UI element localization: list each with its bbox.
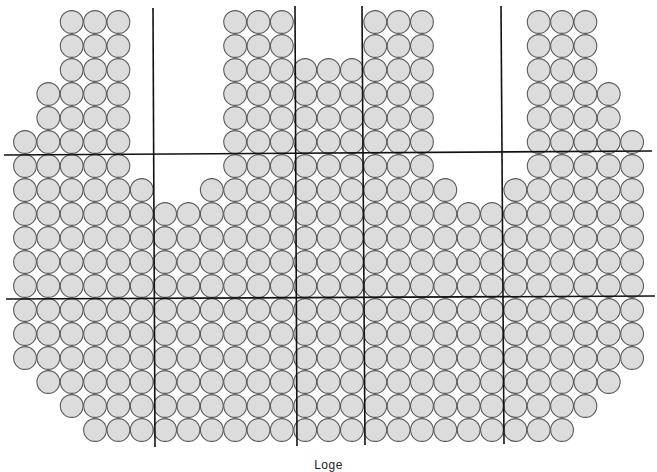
seat[interactable]	[621, 155, 644, 178]
seat[interactable]	[107, 35, 130, 58]
seat[interactable]	[527, 203, 550, 226]
seat[interactable]	[177, 323, 200, 346]
seat[interactable]	[14, 179, 37, 202]
seat[interactable]	[411, 347, 434, 370]
seat[interactable]	[364, 203, 387, 226]
seat[interactable]	[387, 251, 410, 274]
seat[interactable]	[551, 203, 574, 226]
seat[interactable]	[37, 203, 60, 226]
seat[interactable]	[481, 395, 504, 418]
seat[interactable]	[224, 323, 247, 346]
seat[interactable]	[597, 251, 620, 274]
seat[interactable]	[481, 251, 504, 274]
seat[interactable]	[574, 347, 597, 370]
seat[interactable]	[527, 227, 550, 250]
seat[interactable]	[130, 323, 153, 346]
seat[interactable]	[574, 299, 597, 322]
seat[interactable]	[247, 323, 270, 346]
seat[interactable]	[317, 227, 340, 250]
seat[interactable]	[341, 299, 364, 322]
seat[interactable]	[200, 299, 223, 322]
seat[interactable]	[364, 371, 387, 394]
seat[interactable]	[317, 203, 340, 226]
seat[interactable]	[60, 395, 83, 418]
seat[interactable]	[107, 347, 130, 370]
seat[interactable]	[107, 419, 130, 442]
seat[interactable]	[294, 107, 317, 130]
seat[interactable]	[107, 83, 130, 106]
seat[interactable]	[551, 11, 574, 34]
seat[interactable]	[574, 275, 597, 298]
seat[interactable]	[551, 323, 574, 346]
seat[interactable]	[60, 275, 83, 298]
seat[interactable]	[224, 203, 247, 226]
seat[interactable]	[317, 107, 340, 130]
seat[interactable]	[317, 251, 340, 274]
seat[interactable]	[341, 371, 364, 394]
seat[interactable]	[224, 347, 247, 370]
seat[interactable]	[527, 131, 550, 154]
seat[interactable]	[364, 251, 387, 274]
seat[interactable]	[597, 275, 620, 298]
seat[interactable]	[527, 371, 550, 394]
seat[interactable]	[247, 179, 270, 202]
seat[interactable]	[597, 107, 620, 130]
seat[interactable]	[154, 227, 177, 250]
seat[interactable]	[574, 35, 597, 58]
seat[interactable]	[84, 395, 107, 418]
seat[interactable]	[411, 131, 434, 154]
seat[interactable]	[621, 275, 644, 298]
seat[interactable]	[84, 155, 107, 178]
seat[interactable]	[597, 83, 620, 106]
seat[interactable]	[457, 251, 480, 274]
seat[interactable]	[107, 59, 130, 82]
seat[interactable]	[270, 83, 293, 106]
seat[interactable]	[457, 371, 480, 394]
seat[interactable]	[411, 107, 434, 130]
seat[interactable]	[411, 11, 434, 34]
seat[interactable]	[341, 155, 364, 178]
seat[interactable]	[574, 155, 597, 178]
seat[interactable]	[434, 299, 457, 322]
seat[interactable]	[387, 203, 410, 226]
seat[interactable]	[364, 347, 387, 370]
seat[interactable]	[37, 131, 60, 154]
seat[interactable]	[60, 35, 83, 58]
seat[interactable]	[84, 203, 107, 226]
seat[interactable]	[177, 251, 200, 274]
seat[interactable]	[270, 347, 293, 370]
seat[interactable]	[84, 83, 107, 106]
seat[interactable]	[247, 299, 270, 322]
seat[interactable]	[270, 131, 293, 154]
seat[interactable]	[37, 227, 60, 250]
seat[interactable]	[341, 347, 364, 370]
seat[interactable]	[364, 131, 387, 154]
seat[interactable]	[527, 275, 550, 298]
seat[interactable]	[504, 395, 527, 418]
seat[interactable]	[177, 347, 200, 370]
seat[interactable]	[224, 107, 247, 130]
seat[interactable]	[597, 227, 620, 250]
seat[interactable]	[14, 347, 37, 370]
seat[interactable]	[411, 179, 434, 202]
seat[interactable]	[270, 371, 293, 394]
seat[interactable]	[154, 419, 177, 442]
seat[interactable]	[597, 155, 620, 178]
seat[interactable]	[527, 155, 550, 178]
seat[interactable]	[504, 227, 527, 250]
seat[interactable]	[224, 299, 247, 322]
seat[interactable]	[60, 155, 83, 178]
seat[interactable]	[130, 299, 153, 322]
seat[interactable]	[597, 179, 620, 202]
seat[interactable]	[60, 371, 83, 394]
seat[interactable]	[387, 83, 410, 106]
seat[interactable]	[270, 323, 293, 346]
seat[interactable]	[317, 395, 340, 418]
seat[interactable]	[107, 299, 130, 322]
seat[interactable]	[457, 227, 480, 250]
seat[interactable]	[270, 11, 293, 34]
seat[interactable]	[107, 131, 130, 154]
seat[interactable]	[574, 251, 597, 274]
seat[interactable]	[177, 227, 200, 250]
seat[interactable]	[84, 11, 107, 34]
